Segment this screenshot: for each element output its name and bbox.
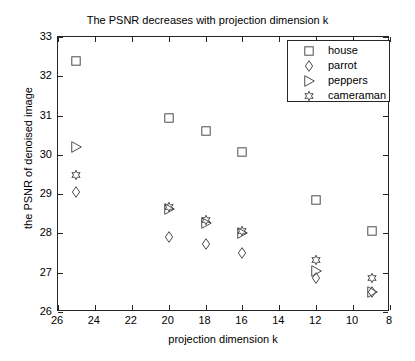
legend-item-parrot[interactable]: parrot	[288, 58, 391, 73]
x-axis-tick	[169, 37, 170, 42]
data-point-cameraman	[199, 213, 213, 227]
data-point-house	[69, 54, 83, 68]
triangle-right-marker	[298, 73, 320, 88]
x-axis-tick	[242, 37, 243, 42]
data-point-parrot	[235, 246, 249, 260]
legend-label: parrot	[328, 58, 357, 73]
data-point-house	[365, 224, 379, 238]
y-axis-tick	[58, 233, 63, 234]
legend-item-peppers[interactable]: peppers	[288, 73, 391, 88]
x-tick-label: 10	[332, 314, 372, 326]
y-tick-label: 26	[18, 305, 52, 317]
legend-item-cameraman[interactable]: cameraman	[288, 88, 391, 103]
y-tick-label: 27	[18, 266, 52, 278]
y-axis-title: the PSNR of denoised image	[22, 58, 34, 258]
y-tick-label: 33	[18, 30, 52, 42]
y-axis-tick	[58, 273, 63, 274]
x-axis-tick	[390, 305, 391, 310]
data-point-cameraman	[235, 224, 249, 238]
x-tick-label: 16	[221, 314, 261, 326]
hexagram-marker	[298, 88, 320, 103]
legend[interactable]: houseparrotpepperscameraman	[287, 40, 390, 102]
x-tick-label: 8	[369, 314, 409, 326]
y-axis-tick	[383, 273, 388, 274]
legend-item-house[interactable]: house	[288, 43, 391, 58]
legend-label: house	[328, 43, 358, 58]
chart-title: The PSNR decreases with projection dimen…	[0, 14, 415, 27]
x-tick-label: 20	[148, 314, 188, 326]
x-axis-tick	[95, 37, 96, 42]
y-axis-tick	[58, 312, 63, 313]
y-axis-tick	[58, 194, 63, 195]
y-axis-tick	[58, 76, 63, 77]
y-axis-tick	[383, 155, 388, 156]
square-marker	[298, 43, 320, 58]
data-point-cameraman	[309, 253, 323, 267]
data-point-cameraman	[69, 168, 83, 182]
y-axis-tick	[383, 233, 388, 234]
x-tick-label: 24	[74, 314, 114, 326]
data-point-peppers	[365, 285, 379, 299]
x-axis-tick	[132, 305, 133, 310]
data-point-peppers	[69, 140, 83, 154]
y-axis-tick	[383, 116, 388, 117]
y-axis-tick	[58, 116, 63, 117]
x-tick-label: 22	[111, 314, 151, 326]
x-axis-tick	[390, 37, 391, 42]
data-point-parrot	[199, 237, 213, 251]
x-axis-tick	[316, 305, 317, 310]
data-point-parrot	[69, 185, 83, 199]
x-axis-tick	[169, 305, 170, 310]
legend-label: peppers	[328, 73, 368, 88]
x-axis-tick	[95, 305, 96, 310]
y-axis-tick	[58, 37, 63, 38]
y-axis-tick	[383, 194, 388, 195]
data-point-house	[309, 193, 323, 207]
x-axis-tick	[206, 305, 207, 310]
x-tick-label: 18	[185, 314, 225, 326]
x-axis-tick	[279, 305, 280, 310]
data-point-house	[235, 145, 249, 159]
data-point-cameraman	[162, 200, 176, 214]
figure: The PSNR decreases with projection dimen…	[0, 0, 415, 361]
x-axis-tick	[242, 305, 243, 310]
x-axis-tick	[279, 37, 280, 42]
y-axis-tick	[58, 155, 63, 156]
x-tick-label: 12	[295, 314, 335, 326]
x-axis-title: projection dimension k	[57, 333, 389, 345]
data-point-house	[199, 124, 213, 138]
data-point-cameraman	[365, 271, 379, 285]
x-axis-tick	[58, 305, 59, 310]
data-point-house	[162, 111, 176, 125]
data-point-parrot	[162, 230, 176, 244]
x-axis-tick	[206, 37, 207, 42]
x-axis-tick	[353, 305, 354, 310]
diamond-marker	[298, 58, 320, 73]
legend-label: cameraman	[328, 88, 386, 103]
x-tick-label: 14	[258, 314, 298, 326]
y-axis-tick	[383, 312, 388, 313]
y-axis-tick	[383, 37, 388, 38]
x-axis-tick	[132, 37, 133, 42]
